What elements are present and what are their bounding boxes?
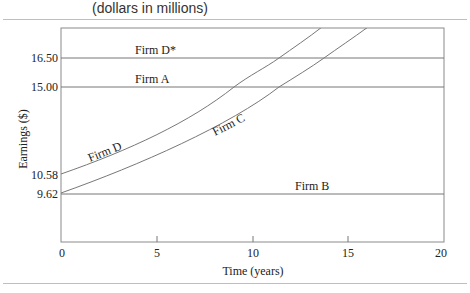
- x-axis-label: Time (years): [222, 264, 283, 278]
- y-tick-9-62: 9.62: [37, 187, 58, 201]
- label-firm-d-star: Firm D*: [135, 43, 176, 57]
- earnings-chart: 0 5 10 15 20 9.62 10.58 15.00 16.50 Time…: [0, 0, 470, 293]
- label-firm-a: Firm A: [135, 72, 170, 86]
- y-tick-15-00: 15.00: [31, 80, 58, 94]
- y-tick-10-58: 10.58: [31, 168, 58, 182]
- x-ticks: [157, 236, 348, 242]
- x-tick-10: 10: [247, 246, 259, 260]
- y-tick-16-50: 16.50: [31, 51, 58, 65]
- label-firm-b: Firm B: [295, 179, 329, 193]
- y-axis-label: Earnings ($): [16, 109, 30, 169]
- x-tick-5: 5: [154, 246, 160, 260]
- line-firm-c: [61, 27, 368, 193]
- x-tick-0: 0: [59, 246, 65, 260]
- label-firm-d: Firm D: [86, 139, 124, 165]
- x-tick-15: 15: [342, 246, 354, 260]
- plot-frame: [61, 28, 444, 242]
- x-tick-20: 20: [435, 246, 447, 260]
- label-firm-c: Firm C: [210, 111, 247, 139]
